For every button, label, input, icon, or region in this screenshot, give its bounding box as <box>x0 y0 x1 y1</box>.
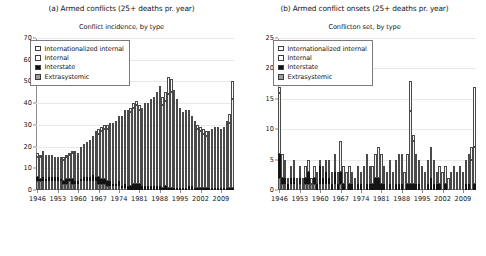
legend-swatch-icon <box>35 74 41 80</box>
legend-item: Internationalized internal <box>35 44 124 53</box>
x-axis-tick-mark <box>402 190 403 193</box>
x-axis-tick-label: 1946 <box>271 195 288 203</box>
bar-segment <box>231 188 233 190</box>
x-axis-tick-label: 2002 <box>192 195 209 203</box>
legend-item-label: Internationalized internal <box>288 45 367 53</box>
bar-segment <box>284 160 286 178</box>
legend-item: Interstate <box>35 63 124 72</box>
bar-2013 <box>473 87 475 190</box>
x-axis-tick-mark <box>78 190 79 193</box>
legend-item: Interstate <box>278 63 367 72</box>
x-axis-tick-mark <box>58 190 59 193</box>
x-axis-tick-mark <box>361 190 362 193</box>
legend-swatch-icon <box>278 65 284 71</box>
legend-item-label: Extrasystemic <box>288 73 333 81</box>
legend-swatch-icon <box>35 65 41 71</box>
bar-segment <box>293 160 295 178</box>
x-axis-tick-mark <box>37 190 38 193</box>
x-axis-tick-mark <box>160 190 161 193</box>
x-axis-tick-mark <box>443 190 444 193</box>
x-axis-tick-label: 2002 <box>434 195 451 203</box>
x-axis-tick-mark <box>180 190 181 193</box>
x-axis-tick-label: 2009 <box>213 195 230 203</box>
bar-segment <box>278 93 280 154</box>
x-axis-tick-label: 1981 <box>373 195 390 203</box>
x-axis-tick-mark <box>381 190 382 193</box>
x-axis-tick-mark <box>221 190 222 193</box>
legend-item: Extrasystemic <box>35 72 124 81</box>
panel-a-title: (a) Armed conflicts (25+ deaths pr. year… <box>0 4 243 13</box>
legend-item-label: Extrasystemic <box>45 73 90 81</box>
x-axis-tick-mark <box>300 190 301 193</box>
x-axis-tick-label: 1988 <box>393 195 410 203</box>
x-axis-tick-mark <box>119 190 120 193</box>
bar-segment <box>473 184 475 190</box>
x-axis-tick-label: 2009 <box>455 195 472 203</box>
legend-swatch-icon <box>278 74 284 80</box>
x-axis-tick-label: 1953 <box>291 195 308 203</box>
legend-swatch-icon <box>278 55 284 61</box>
figure-container: (a) Armed conflicts (25+ deaths pr. year… <box>0 0 486 256</box>
legend-item-label: Internal <box>45 54 69 62</box>
bar-segment <box>307 160 309 172</box>
panel-a-legend: Internationalized internalInternalInters… <box>30 40 130 86</box>
panel-b-legend: Internationalized internalInternalInters… <box>273 40 373 86</box>
bar-segment <box>409 81 411 111</box>
x-axis-tick-label: 1967 <box>90 195 107 203</box>
x-axis-tick-mark <box>139 190 140 193</box>
legend-item: Internationalized internal <box>278 44 367 53</box>
x-axis-tick-mark <box>99 190 100 193</box>
legend-swatch-icon <box>35 46 41 52</box>
legend-swatch-icon <box>278 46 284 52</box>
x-axis-tick-mark <box>463 190 464 193</box>
x-axis-tick-mark <box>422 190 423 193</box>
panel-a-subtitle: Conflict incidence, by type <box>0 23 243 31</box>
x-axis-tick-label: 1946 <box>29 195 46 203</box>
bar-segment <box>299 166 301 178</box>
x-axis-tick-mark <box>341 190 342 193</box>
bar-segment <box>473 87 475 148</box>
legend-item-label: Interstate <box>45 63 76 71</box>
bar-segment <box>231 81 233 98</box>
x-axis-tick-label: 1988 <box>151 195 168 203</box>
panel-b-title: (b) Armed conflict onsets (25+ deaths pr… <box>243 4 486 13</box>
bar-segment <box>473 147 475 183</box>
x-axis-tick-label: 1981 <box>131 195 148 203</box>
panel-b: (b) Armed conflict onsets (25+ deaths pr… <box>243 0 486 256</box>
legend-item: Internal <box>35 53 124 62</box>
x-axis-tick-mark <box>201 190 202 193</box>
x-axis-tick-mark <box>320 190 321 193</box>
x-axis-tick-label: 1995 <box>172 195 189 203</box>
x-axis-tick-label: 1960 <box>312 195 329 203</box>
legend-item: Internal <box>278 53 367 62</box>
x-axis-tick-label: 1953 <box>49 195 66 203</box>
legend-item: Extrasystemic <box>278 72 367 81</box>
bar-segment <box>231 99 233 188</box>
panel-b-subtitle: Conflicton set, by type <box>243 23 486 31</box>
legend-swatch-icon <box>35 55 41 61</box>
x-axis-tick-label: 1974 <box>353 195 370 203</box>
x-axis-tick-label: 1995 <box>414 195 431 203</box>
x-axis-tick-label: 1960 <box>70 195 87 203</box>
panel-a: (a) Armed conflicts (25+ deaths pr. year… <box>0 0 243 256</box>
legend-item-label: Interstate <box>288 63 319 71</box>
x-axis-tick-label: 1974 <box>111 195 128 203</box>
legend-item-label: Internationalized internal <box>45 45 124 53</box>
x-axis-tick-label: 1967 <box>332 195 349 203</box>
x-axis-tick-mark <box>279 190 280 193</box>
legend-item-label: Internal <box>288 54 312 62</box>
bar-segment <box>334 154 336 172</box>
bar-2013 <box>231 81 233 190</box>
